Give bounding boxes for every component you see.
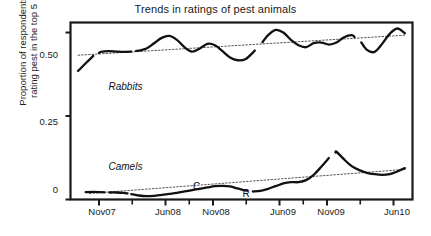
series-segment-rabbits-4	[361, 29, 405, 53]
series-label-camels: Camels	[109, 161, 143, 172]
annotation-c: C	[193, 181, 200, 192]
chart-figure: Trends in ratings of pest animals Propor…	[0, 0, 431, 236]
series-segment-rabbits-1	[99, 51, 131, 53]
series-segment-camels-0	[86, 192, 105, 193]
series-segment-camels-4	[336, 151, 405, 174]
plot-area	[0, 0, 431, 236]
series-segment-camels-2	[131, 186, 247, 196]
annotation-r: R	[242, 188, 249, 199]
series-segment-rabbits-0	[78, 56, 93, 71]
series-segment-rabbits-3	[262, 30, 354, 48]
series-segment-camels-3	[253, 158, 329, 191]
plot-frame	[71, 23, 413, 200]
series-label-rabbits: Rabbits	[109, 81, 143, 92]
series-segment-camels-1	[109, 192, 127, 193]
